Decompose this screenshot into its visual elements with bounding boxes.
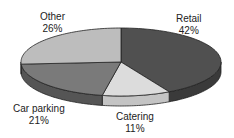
label-catering-name: Catering xyxy=(116,111,154,123)
label-car-parking: Car parking 21% xyxy=(13,103,65,127)
label-catering-value: 11% xyxy=(116,123,154,135)
pie-slice-other xyxy=(21,28,121,64)
label-other-value: 26% xyxy=(40,23,65,35)
label-other: Other 26% xyxy=(40,11,65,35)
label-car-parking-name: Car parking xyxy=(13,103,65,115)
label-retail-name: Retail xyxy=(176,13,202,25)
label-retail-value: 42% xyxy=(176,25,202,37)
label-other-name: Other xyxy=(40,11,65,23)
label-catering: Catering 11% xyxy=(116,111,154,135)
label-retail: Retail 42% xyxy=(176,13,202,37)
pie-top xyxy=(21,28,221,96)
label-car-parking-value: 21% xyxy=(13,115,65,127)
